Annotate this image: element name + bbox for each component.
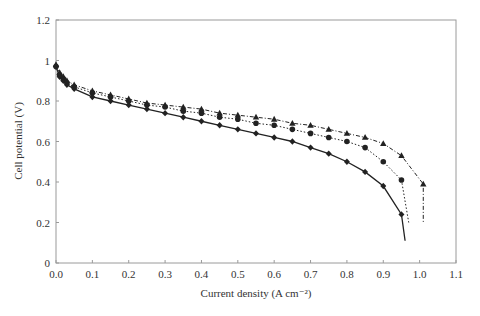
series-diamond-solid <box>53 63 405 240</box>
diamond-marker <box>180 114 186 120</box>
x-tick-label: 0.4 <box>195 268 209 280</box>
x-tick-label: 1.0 <box>413 268 427 280</box>
triangle-marker <box>89 87 95 93</box>
diamond-marker <box>344 159 350 165</box>
circle-marker <box>326 135 332 141</box>
diamond-marker <box>235 126 241 132</box>
diamond-marker <box>217 122 223 128</box>
circle-marker <box>290 127 296 133</box>
diamond-marker <box>271 134 277 140</box>
triangle-marker <box>380 140 386 146</box>
circle-marker <box>253 120 259 126</box>
circle-marker <box>271 123 277 129</box>
x-tick-label: 1.1 <box>449 268 463 280</box>
y-tick-label: 0.2 <box>36 217 50 229</box>
x-tick-label: 0.1 <box>85 268 99 280</box>
triangle-marker <box>362 134 368 140</box>
diamond-marker <box>162 110 168 116</box>
x-axis-label: Current density (A cm⁻²) <box>201 287 312 300</box>
x-tick-label: 0.3 <box>158 268 172 280</box>
triangle-marker <box>53 61 59 67</box>
x-tick-label: 0.8 <box>340 268 354 280</box>
diamond-marker <box>326 150 332 156</box>
series-line <box>56 65 423 223</box>
diamond-marker <box>253 130 259 136</box>
triangle-marker <box>326 126 332 132</box>
triangle-marker <box>271 116 277 122</box>
chart-plot: 00.20.40.60.811.2 0.00.10.20.30.40.50.60… <box>0 0 480 316</box>
y-tick-label: 0.4 <box>36 176 50 188</box>
triangle-marker <box>289 120 295 126</box>
triangle-marker <box>71 81 77 87</box>
diamond-marker <box>198 118 204 124</box>
circle-marker <box>399 177 405 183</box>
y-tick-label: 0.6 <box>36 136 50 148</box>
x-tick-label: 0.2 <box>122 268 136 280</box>
triangle-marker <box>307 122 313 128</box>
series-circle-dotted <box>53 64 409 223</box>
series-triangle-dashdot <box>53 61 427 222</box>
y-tick-label: 0.8 <box>36 95 50 107</box>
circle-marker <box>362 145 368 151</box>
triangle-marker <box>398 152 404 158</box>
x-tick-label: 0.9 <box>376 268 390 280</box>
x-tick-label: 0.7 <box>304 268 318 280</box>
diamond-marker <box>289 138 295 144</box>
x-tick-label: 0.5 <box>231 268 245 280</box>
y-tick-label: 1.2 <box>36 14 50 26</box>
circle-marker <box>344 139 350 145</box>
diamond-marker <box>308 144 314 150</box>
circle-marker <box>308 131 314 137</box>
x-tick-label: 0.6 <box>267 268 281 280</box>
circle-marker <box>380 159 386 165</box>
series-line <box>56 67 405 241</box>
series-layer <box>53 61 427 241</box>
x-tick-label: 0.0 <box>49 268 63 280</box>
plot-frame <box>56 20 456 263</box>
y-axis-label: Cell potential (V) <box>12 102 25 180</box>
series-line <box>56 67 409 223</box>
y-tick-label: 1 <box>45 55 51 67</box>
